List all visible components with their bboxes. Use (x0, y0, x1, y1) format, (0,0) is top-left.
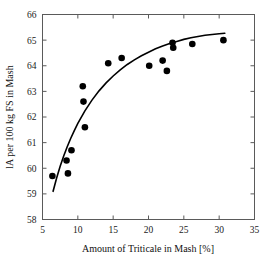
scatter-plot: 5101520253035 585960616263646566 Amount … (0, 0, 279, 265)
y-axis-ticks (43, 15, 255, 220)
y-tick-label-65: 65 (27, 36, 37, 46)
plot-frame (43, 15, 255, 220)
data-point (220, 37, 227, 44)
x-axis-ticks (43, 15, 255, 220)
data-point (68, 147, 75, 154)
x-tick-label-10: 10 (73, 225, 83, 235)
x-tick-label-20: 20 (144, 225, 154, 235)
y-axis-tick-labels: 585960616263646566 (27, 10, 37, 225)
y-tick-label-61: 61 (27, 138, 37, 148)
y-tick-label-66: 66 (27, 10, 37, 20)
y-tick-label-62: 62 (27, 112, 37, 122)
x-tick-label-30: 30 (214, 225, 224, 235)
x-tick-label-35: 35 (250, 225, 260, 235)
y-tick-label-60: 60 (27, 164, 37, 174)
data-point (79, 83, 86, 90)
chart-figure: 5101520253035 585960616263646566 Amount … (0, 0, 279, 265)
data-point (164, 68, 171, 75)
data-point (65, 170, 72, 177)
data-point (146, 62, 153, 69)
x-tick-label-25: 25 (179, 225, 189, 235)
data-point (63, 157, 70, 164)
data-point (105, 60, 112, 67)
data-point (49, 173, 56, 180)
data-point (82, 124, 89, 131)
x-axis-title: Amount of Triticale in Mash [%] (82, 243, 214, 254)
x-tick-label-15: 15 (108, 225, 118, 235)
regression-curve (53, 33, 225, 191)
y-axis-title: lA per 100 kg FS in Mash (4, 65, 15, 168)
data-point (159, 57, 166, 64)
x-axis-tick-labels: 5101520253035 (40, 225, 259, 235)
data-point (118, 55, 125, 62)
data-point (170, 45, 177, 52)
data-point (80, 98, 87, 105)
y-tick-label-58: 58 (27, 215, 37, 225)
plot-area-border (43, 15, 255, 220)
y-tick-label-63: 63 (27, 87, 37, 97)
y-tick-label-59: 59 (27, 189, 37, 199)
y-tick-label-64: 64 (27, 61, 37, 71)
x-tick-label-5: 5 (40, 225, 45, 235)
data-point (189, 41, 196, 48)
